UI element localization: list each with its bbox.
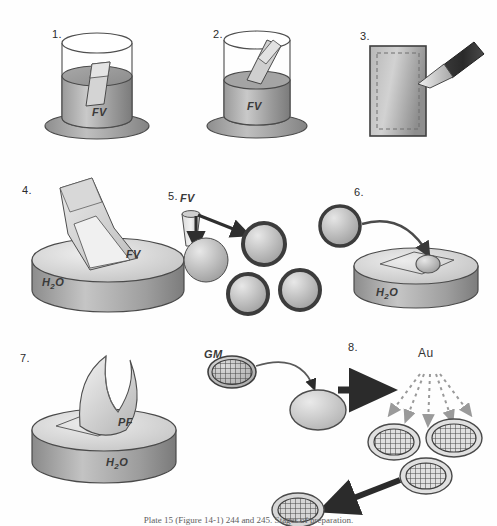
- panel-5-number: 5.: [168, 190, 178, 202]
- figure-caption: Plate 15 (Figure 14-1) 244 and 245. Stag…: [0, 514, 497, 526]
- panel-5-solution-label: FV: [180, 192, 195, 204]
- panel-8-gold-label: Au: [418, 346, 433, 360]
- panel-7-film-label: PF: [118, 416, 133, 428]
- panel-1-solution-label: FV: [92, 106, 107, 118]
- panel-2: 2. FV: [195, 18, 345, 148]
- panel-6-illustration: [318, 182, 497, 322]
- panel-7-number: 7.: [20, 352, 30, 364]
- panel-7-illustration: [14, 338, 209, 503]
- panel-7: 7. PF H2O: [14, 338, 209, 503]
- panel-7-water-label: H2O: [106, 456, 128, 471]
- panel-6-number: 6.: [354, 186, 364, 198]
- panel-3: 3.: [352, 18, 497, 148]
- panel-3-number: 3.: [360, 30, 370, 42]
- panel-4-number: 4.: [22, 184, 32, 196]
- panel-8-number: 8.: [348, 341, 358, 353]
- panel-6-water-label: H2O: [376, 286, 398, 301]
- panel-1: 1.: [30, 18, 180, 148]
- panel-4-film-label: FV: [126, 248, 141, 260]
- panel-8-illustration: [190, 338, 490, 518]
- panel-5: 5.: [160, 182, 325, 317]
- figure-plate: 1.: [0, 0, 497, 526]
- grid-mesh-source: [208, 356, 256, 388]
- panel-8-grid-mesh-label: GM: [204, 348, 223, 360]
- panel-4-water-label: H2O: [42, 276, 64, 291]
- panel-3-illustration: [352, 18, 497, 148]
- panel-1-number: 1.: [52, 28, 62, 40]
- panel-8: 8.: [190, 338, 490, 518]
- panel-6: 6.: [318, 182, 497, 322]
- panel-2-number: 2.: [213, 28, 223, 40]
- panel-2-solution-label: FV: [247, 100, 262, 112]
